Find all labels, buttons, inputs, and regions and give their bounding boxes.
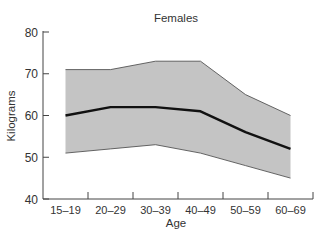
- x-axis: 15–1920–2930–3940–4950–5960–69: [43, 192, 313, 216]
- x-tick-label: 50–59: [230, 204, 261, 216]
- x-tick-label: 60–69: [275, 204, 306, 216]
- x-tick-label: 20–29: [95, 204, 126, 216]
- y-tick-label: 60: [25, 109, 39, 123]
- weight-by-age-chart: Females 4050607080 15–1920–2930–3940–495…: [0, 0, 327, 242]
- y-tick-label: 70: [25, 67, 39, 81]
- y-axis: 4050607080: [25, 26, 49, 207]
- x-tick-label: 15–19: [50, 204, 81, 216]
- x-axis-label: Age: [166, 217, 186, 229]
- x-tick-label: 30–39: [140, 204, 171, 216]
- y-tick-label: 40: [25, 193, 39, 207]
- x-tick-label: 40–49: [185, 204, 216, 216]
- chart-title: Females: [154, 12, 198, 24]
- plot-area: [66, 61, 291, 178]
- y-axis-label: Kilograms: [5, 90, 17, 141]
- y-tick-label: 50: [25, 151, 39, 165]
- y-tick-label: 80: [25, 26, 39, 40]
- range-band: [66, 61, 291, 178]
